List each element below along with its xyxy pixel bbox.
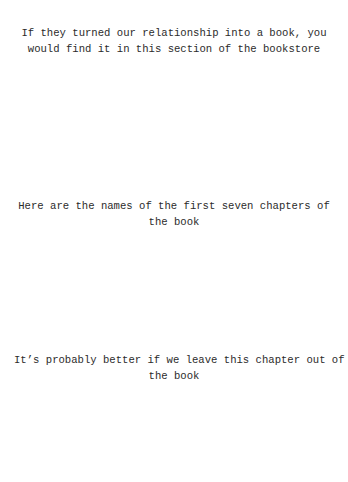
prompt-line: the book bbox=[14, 369, 334, 385]
prompt-chapter-names: Here are the names of the first seven ch… bbox=[0, 199, 348, 230]
prompt-line: It’s probably better if we leave this ch… bbox=[14, 353, 334, 369]
prompt-line: Here are the names of the first seven ch… bbox=[14, 199, 334, 215]
prompt-bookstore-section: If they turned our relationship into a b… bbox=[0, 26, 348, 57]
prompt-chapter-left-out: It’s probably better if we leave this ch… bbox=[0, 353, 348, 384]
prompt-line: If they turned our relationship into a b… bbox=[14, 26, 334, 42]
prompt-line: would find it in this section of the boo… bbox=[14, 42, 334, 58]
prompt-line: the book bbox=[14, 215, 334, 231]
